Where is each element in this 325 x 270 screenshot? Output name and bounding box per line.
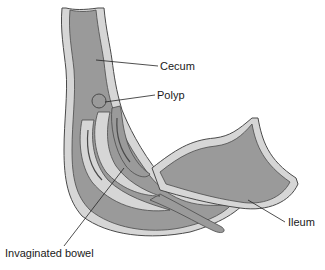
polyp xyxy=(92,94,106,108)
ileum-label: Ileum xyxy=(288,216,315,228)
polyp-label: Polyp xyxy=(157,89,185,101)
intussusception-illustration xyxy=(0,0,325,270)
invaginated-bowel-label: Invaginated bowel xyxy=(5,247,94,259)
cecum-label: Cecum xyxy=(160,60,195,72)
